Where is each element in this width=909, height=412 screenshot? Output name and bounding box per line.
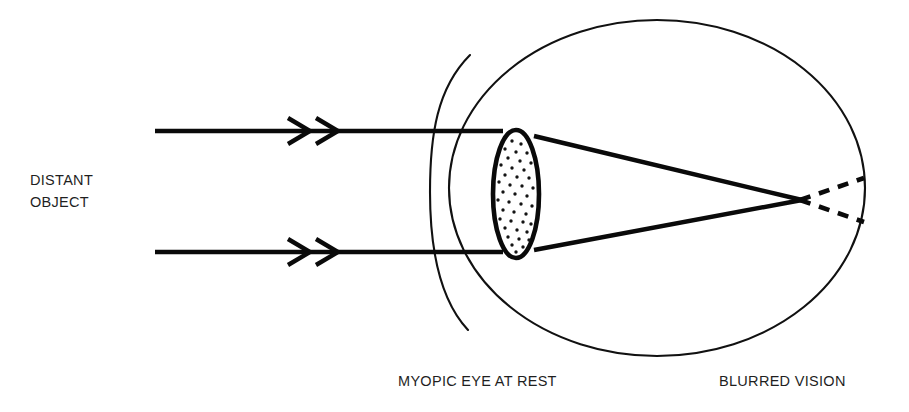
myopic-eye-label: MYOPIC EYE AT REST — [398, 373, 557, 389]
crystalline-lens — [493, 130, 539, 258]
blurred-vision-label: BLURRED VISION — [719, 373, 846, 389]
myopia-diagram-canvas: DISTANT OBJECT MYOPIC EYE AT REST BLURRE… — [0, 0, 909, 412]
distant-object-label-line1: DISTANT — [30, 172, 93, 188]
eye-ray-diagram: DISTANT OBJECT MYOPIC EYE AT REST BLURRE… — [0, 0, 909, 412]
distant-object-label-line2: OBJECT — [30, 194, 89, 210]
